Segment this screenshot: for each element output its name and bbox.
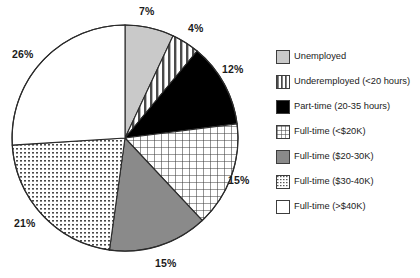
legend-item-unemployed[interactable]: Unemployed	[276, 44, 420, 69]
legend-label-underemployed: Underemployed (<20 hours)	[294, 77, 410, 86]
chart-legend: Unemployed Underemployed (<20 hours) Par…	[276, 44, 420, 219]
legend-label-fulltime-20-30k: Full-time ($20-30K)	[294, 152, 374, 161]
pie-label-fulltime-30-40k: 21%	[14, 217, 35, 229]
pie-slice-fulltime-30-40k	[12, 138, 125, 250]
pie-label-fulltime-20-30k: 15%	[155, 257, 176, 269]
legend-swatch-unemployed-icon	[276, 50, 290, 64]
legend-swatch-underemployed-icon	[276, 75, 290, 89]
legend-label-fulltime-over-40k: Full-time (>$40K)	[294, 202, 366, 211]
legend-item-fulltime-under-20k[interactable]: Full-time (<$20K)	[276, 119, 420, 144]
pie-label-fulltime-over-40k: 26%	[12, 48, 33, 60]
legend-label-fulltime-30-40k: Full-time ($30-40K)	[294, 177, 374, 186]
legend-swatch-fulltime-20-30k-icon	[276, 150, 290, 164]
pie-label-underemployed: 4%	[188, 22, 203, 34]
pie-label-unemployed: 7%	[139, 5, 154, 17]
legend-swatch-part-time-icon	[276, 100, 290, 114]
legend-swatch-fulltime-under-20k-icon	[276, 125, 290, 139]
legend-item-part-time[interactable]: Part-time (20-35 hours)	[276, 94, 420, 119]
legend-item-fulltime-30-40k[interactable]: Full-time ($30-40K)	[276, 169, 420, 194]
legend-label-unemployed: Unemployed	[294, 52, 346, 61]
pie-chart-figure: 7% 4% 12% 15% 15% 21% 26% Unemployed Und…	[0, 0, 420, 278]
pie-label-part-time: 12%	[222, 63, 243, 75]
pie-slice-fulltime-over-40k	[12, 25, 125, 145]
legend-item-fulltime-20-30k[interactable]: Full-time ($20-30K)	[276, 144, 420, 169]
legend-label-part-time: Part-time (20-35 hours)	[294, 102, 390, 111]
legend-label-fulltime-under-20k: Full-time (<$20K)	[294, 127, 366, 136]
legend-item-underemployed[interactable]: Underemployed (<20 hours)	[276, 69, 420, 94]
legend-swatch-fulltime-30-40k-icon	[276, 175, 290, 189]
legend-swatch-fulltime-over-40k-icon	[276, 200, 290, 214]
legend-item-fulltime-over-40k[interactable]: Full-time (>$40K)	[276, 194, 420, 219]
pie-label-fulltime-under-20k: 15%	[228, 174, 249, 186]
pie-chart-graphic	[0, 0, 270, 278]
